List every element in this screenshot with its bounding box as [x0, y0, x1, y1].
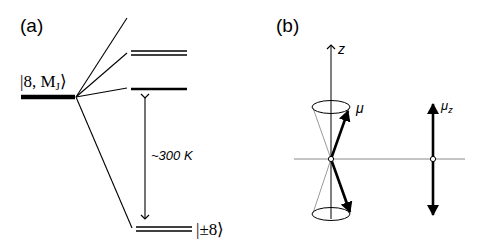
diagram-canvas: (a) |8, MJ⟩ ~300 K |±8⟩ (b) z [0, 0, 484, 249]
ground-doublet [136, 227, 192, 231]
moment-arrow-down [331, 159, 350, 212]
energy-gap-label: ~300 K [151, 148, 194, 163]
level-doublet-upper [131, 51, 187, 55]
moment-label: μ [355, 100, 364, 116]
z-axis-label: z [337, 41, 345, 57]
ground-state-label: |±8⟩ [196, 220, 224, 239]
moment-arrow-up [331, 111, 348, 159]
projection-origin-point [430, 156, 435, 161]
panel-b-label: (b) [276, 15, 299, 36]
origin-point [328, 156, 333, 161]
initial-state-label: |8, MJ⟩ [20, 72, 67, 92]
svg-text:|8, MJ⟩: |8, MJ⟩ [20, 72, 67, 92]
panel-a-label: (a) [20, 15, 43, 36]
projection-label: μz [440, 98, 453, 115]
splitting-lines [76, 18, 132, 228]
